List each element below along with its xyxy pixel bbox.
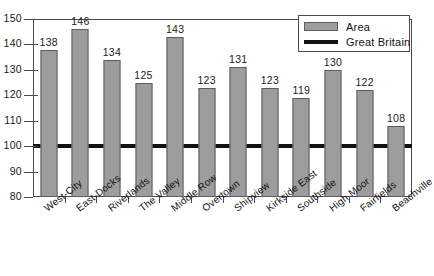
bar-group: 134: [96, 19, 128, 197]
bar-value-label: 108: [387, 112, 405, 124]
y-axis-tick-mark: [24, 146, 33, 147]
bar-group: 131: [223, 19, 255, 197]
x-axis-labels: West-CityEast-DocksRiverlandsThe ValleyM…: [33, 197, 424, 276]
y-axis-tick-mark: [24, 197, 33, 198]
y-axis-tick-mark: [24, 70, 33, 71]
bar: [230, 67, 247, 197]
bar-value-label: 123: [197, 74, 215, 86]
y-axis-tick-label: 120: [4, 88, 22, 100]
bar-group: 146: [65, 19, 97, 197]
bar-value-label: 125: [134, 69, 152, 81]
y-axis-tick-label: 140: [4, 37, 22, 49]
bar-value-label: 138: [40, 36, 58, 48]
legend-item-great-britain: Great Britain: [304, 35, 404, 48]
bar-value-label: 123: [261, 74, 279, 86]
bar-value-label: 131: [229, 53, 247, 65]
y-axis-tick-label: 80: [10, 190, 22, 202]
bar-value-label: 143: [166, 23, 184, 35]
y-axis-tick-label: 130: [4, 63, 22, 75]
legend-label-area: Area: [346, 21, 370, 33]
bar-value-label: 130: [324, 56, 342, 68]
bar-group: 138: [33, 19, 65, 197]
bar: [72, 29, 89, 197]
legend-line-swatch-icon: [304, 40, 338, 44]
bar-value-label: 122: [355, 76, 373, 88]
y-axis-tick-mark: [24, 121, 33, 122]
y-axis-tick-mark: [24, 172, 33, 173]
legend-item-area: Area: [304, 20, 404, 33]
legend-label-great-britain: Great Britain: [346, 36, 410, 48]
y-axis-tick-label: 110: [4, 114, 22, 126]
y-axis-tick-label: 150: [4, 12, 22, 24]
bar-group: 123: [191, 19, 223, 197]
chart-legend: Area Great Britain: [298, 15, 410, 52]
y-axis-tick-label: 90: [10, 165, 22, 177]
y-axis-tick-label: 100: [4, 139, 22, 151]
bar-group: 123: [254, 19, 286, 197]
bar-value-label: 134: [103, 46, 121, 58]
y-axis: 1501401301201101009080: [0, 19, 33, 197]
y-axis-tick-mark: [24, 19, 33, 20]
bar: [40, 50, 57, 197]
y-axis-tick-mark: [24, 95, 33, 96]
bar: [167, 37, 184, 197]
legend-bar-swatch-icon: [304, 22, 338, 31]
bar-value-label: 119: [293, 84, 311, 96]
bar-group: 143: [159, 19, 191, 197]
bar-group: 125: [128, 19, 160, 197]
y-axis-tick-mark: [24, 44, 33, 45]
bar-value-label: 146: [71, 15, 89, 27]
